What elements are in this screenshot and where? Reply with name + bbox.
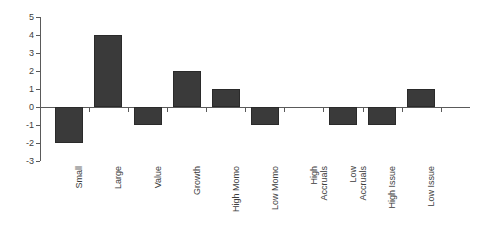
- y-axis-tick-label: 1: [0, 83, 40, 95]
- bar: [212, 89, 240, 107]
- x-axis-category-label: Growth: [192, 166, 202, 228]
- bar-chart: 543210-1-2-3 SmallLargeValueGrowthHigh M…: [0, 0, 477, 228]
- x-axis-category-label: High Momo: [231, 166, 241, 228]
- bar: [368, 107, 396, 125]
- x-axis-category-label: Low Momo: [270, 166, 280, 228]
- y-axis-tick-label: 4: [0, 29, 40, 41]
- y-axis-tick-label: -2: [0, 137, 40, 149]
- x-axis-category-label: High Issue: [387, 166, 397, 228]
- x-axis-category-label: Value: [153, 166, 163, 228]
- bar: [407, 89, 435, 107]
- bar: [173, 71, 201, 107]
- x-axis-category-label: High Accruals: [309, 166, 329, 228]
- y-axis-tick-label: 5: [0, 11, 40, 23]
- bar: [55, 107, 83, 143]
- x-axis-category-label: Small: [74, 166, 84, 228]
- bar: [251, 107, 279, 125]
- y-axis-tick-label: 3: [0, 47, 40, 59]
- y-axis-tick-label: -3: [0, 155, 40, 167]
- y-axis-tick-label: -1: [0, 119, 40, 131]
- y-axis-tick-label: 2: [0, 65, 40, 77]
- bar: [329, 107, 357, 125]
- x-axis-category-label: Large: [113, 166, 123, 228]
- y-axis-tick-mark: [36, 161, 40, 162]
- bar: [94, 35, 122, 107]
- plot-area: [40, 17, 470, 161]
- x-axis-category-label: Low Issue: [426, 166, 436, 228]
- y-axis-tick-label: 0: [0, 101, 40, 113]
- bar: [134, 107, 162, 125]
- x-axis-category-label: Low Accruals: [348, 166, 368, 228]
